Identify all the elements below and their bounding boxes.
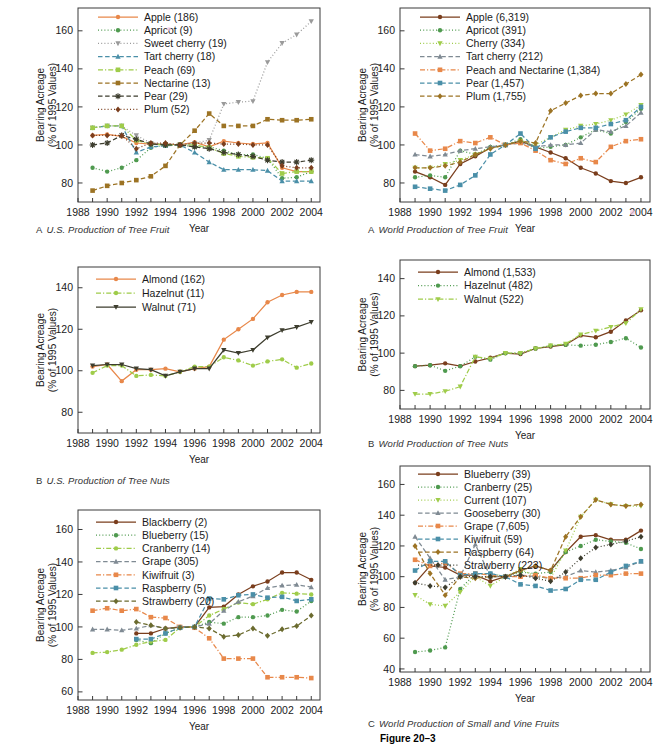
y-axis-label-line2: (% of 1995 Values) xyxy=(369,63,380,147)
chart-p3: 8010012014019881990199219941996199820002… xyxy=(334,250,662,455)
legend-label: Blueberry (15) xyxy=(142,529,209,541)
x-axis-label: Year xyxy=(515,693,536,704)
y-tick-label: 100 xyxy=(55,621,73,633)
x-tick-label: 1996 xyxy=(509,676,533,688)
x-tick-label: 2002 xyxy=(270,437,294,449)
legend-label: Hazelnut (11) xyxy=(142,287,204,299)
x-tick-label: 2002 xyxy=(599,413,623,425)
y-tick-label: 80 xyxy=(383,177,395,189)
x-tick-label: 1992 xyxy=(449,413,473,425)
x-tick-label: 1988 xyxy=(66,437,90,449)
legend-label: Peach (69) xyxy=(144,64,195,76)
legend-label: Apple (186) xyxy=(144,11,198,23)
x-tick-label: 1998 xyxy=(212,704,236,716)
x-tick-label: 2002 xyxy=(599,676,623,688)
y-tick-label: 80 xyxy=(61,177,73,189)
panel-world-small-vine: 4060801001201401601988199019921994199619… xyxy=(334,458,662,720)
legend-label: Grape (305) xyxy=(142,555,199,567)
legend-marker xyxy=(114,277,118,281)
legend-marker xyxy=(436,524,441,529)
x-tick-label: 1998 xyxy=(212,437,236,449)
chart-p0: 8010012014016019881990199219941996199820… xyxy=(0,0,334,250)
legend-label: Blackberry (2) xyxy=(142,516,207,528)
legend-marker xyxy=(114,546,118,550)
legend-marker xyxy=(115,106,120,112)
x-tick-label: 1994 xyxy=(479,676,503,688)
x-tick-label: 1996 xyxy=(509,413,533,425)
y-axis-label-line1: Bearing Acreage xyxy=(357,532,368,606)
legend-marker xyxy=(436,283,440,287)
y-axis-label-line2: (% of 1995 Values) xyxy=(47,563,58,647)
x-tick-label: 1992 xyxy=(125,704,149,716)
legend-label: Sweet cherry (19) xyxy=(144,37,227,49)
caption-text: World Production of Small and Vine Fruit… xyxy=(379,718,559,729)
x-tick-label: 1988 xyxy=(388,413,412,425)
y-tick-label: 140 xyxy=(55,62,73,74)
legend-marker xyxy=(436,537,441,542)
chart-p5: 4060801001201401601988199019921994199619… xyxy=(334,458,662,720)
x-axis-label: Year xyxy=(189,454,210,465)
x-tick-label: 1990 xyxy=(95,704,119,716)
x-tick-label: 2004 xyxy=(300,206,324,218)
panel-us-small-vine: 6080100120140160198819901992199419961998… xyxy=(0,500,334,748)
legend-marker xyxy=(436,270,440,274)
legend-marker xyxy=(436,472,440,476)
y-tick-label: 120 xyxy=(377,101,395,113)
caption-world-small-vine: CWorld Production of Small and Vine Frui… xyxy=(368,718,559,729)
legend-label: Current (107) xyxy=(464,494,526,506)
x-tick-label: 1988 xyxy=(66,704,90,716)
legend-marker xyxy=(116,15,120,19)
x-tick-label: 1994 xyxy=(479,413,503,425)
y-axis-label-line1: Bearing Acreage xyxy=(35,568,46,642)
x-axis-label: Year xyxy=(189,721,210,732)
legend-label: Nectarine (13) xyxy=(144,77,211,89)
x-tick-label: 1996 xyxy=(183,206,207,218)
x-axis-label: Year xyxy=(189,223,210,234)
caption-text: U.S. Production of Tree Nuts xyxy=(46,475,170,486)
x-tick-label: 1990 xyxy=(95,206,119,218)
data-area xyxy=(90,290,314,384)
x-tick-label: 1998 xyxy=(539,413,563,425)
legend-label: Blueberry (39) xyxy=(464,468,531,480)
chart-p2: 8010012014019881990199219941996199820002… xyxy=(0,255,334,485)
x-tick-label: 2000 xyxy=(241,437,265,449)
data-area xyxy=(412,72,643,193)
y-tick-label: 80 xyxy=(61,653,73,665)
x-tick-label: 1996 xyxy=(183,437,207,449)
page-speck xyxy=(167,27,171,31)
legend-marker xyxy=(114,533,118,537)
y-tick-label: 140 xyxy=(377,62,395,74)
legend-label: Hazelnut (482) xyxy=(464,279,533,291)
legend-label: Cranberry (14) xyxy=(142,542,210,554)
x-tick-label: 2002 xyxy=(270,704,294,716)
panel-us-tree-nuts: 8010012014019881990199219941996199820002… xyxy=(0,255,334,485)
y-tick-label: 120 xyxy=(55,323,73,335)
series-line xyxy=(412,103,643,171)
x-axis-label: Year xyxy=(515,430,536,441)
legend-label: Walnut (522) xyxy=(464,293,524,305)
x-axis-label: Year xyxy=(515,223,536,234)
x-tick-label: 2002 xyxy=(599,206,623,218)
legend-marker xyxy=(438,15,442,19)
legend-label: Almond (1,533) xyxy=(464,266,536,278)
legend-label: Strawberry (223) xyxy=(464,559,542,571)
x-tick-label: 2000 xyxy=(241,206,265,218)
legend-label: Almond (162) xyxy=(142,273,205,285)
series-line xyxy=(413,107,643,180)
y-tick-label: 80 xyxy=(61,406,73,418)
series-line xyxy=(90,132,315,165)
x-tick-label: 2004 xyxy=(300,704,324,716)
x-tick-label: 2004 xyxy=(629,676,653,688)
legend-label: Apricot (391) xyxy=(466,24,526,36)
caption-letter: A xyxy=(36,224,46,235)
legend-marker xyxy=(438,81,443,86)
legend-label: Kiwifruit (59) xyxy=(464,533,522,545)
x-tick-label: 1998 xyxy=(539,206,563,218)
y-tick-label: 80 xyxy=(383,384,395,396)
legend-marker xyxy=(437,41,442,46)
legend-label: Cranberry (25) xyxy=(464,481,532,493)
legend-marker xyxy=(114,573,119,578)
legend-marker xyxy=(438,28,442,32)
series-line xyxy=(413,131,644,166)
legend-marker xyxy=(116,28,120,32)
